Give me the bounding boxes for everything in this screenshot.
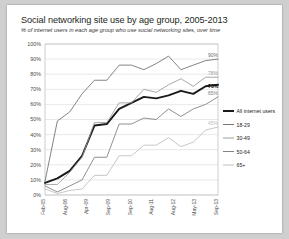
series-line [45, 85, 218, 183]
x-axis-tick-label: Feb-05 [40, 199, 46, 215]
series-line [45, 56, 218, 181]
series-end-labels: 73%90%78%65%45% [208, 52, 219, 126]
series-lines [45, 56, 218, 193]
x-axis-tick-label: May-13 [191, 199, 197, 216]
x-axis-tick-label: Sep-10 [127, 199, 133, 215]
y-axis-tick-label: 10% [30, 177, 41, 183]
legend: All internet users18-2930-4950-6465+ [223, 108, 276, 168]
legend-label: All internet users [237, 108, 276, 114]
chart-plot-area: 0%10%20%30%40%50%60%70%80%90%100% 73%90%… [7, 5, 282, 233]
series-end-label: 90% [208, 52, 219, 58]
legend-label: 65+ [237, 162, 246, 168]
series-end-label: 73% [208, 83, 219, 89]
series-end-label: 65% [208, 90, 219, 96]
y-axis-tick-label: 90% [30, 56, 41, 62]
legend-label: 50-64 [237, 149, 250, 155]
legend-label: 30-49 [237, 135, 250, 141]
series-end-label: 45% [208, 120, 219, 126]
y-axis-tick-label: 30% [30, 147, 41, 153]
y-axis-tick-label: 100% [27, 41, 41, 47]
y-axis-tick-label: 20% [30, 162, 41, 168]
x-axis-tick-labels: Feb-05Aug-06Apr-09Sep-09Sep-10Aug-11Aug-… [40, 199, 219, 216]
y-axis-tick-label: 60% [30, 101, 41, 107]
chart-card: Social networking site use by age group,… [7, 5, 282, 233]
x-axis-tick-label: Aug-11 [148, 199, 154, 215]
legend-label: 18-29 [237, 122, 250, 128]
series-line [45, 97, 218, 192]
x-axis-tick-label: Sep-09 [105, 199, 111, 215]
x-axis-tick-label: Apr-09 [83, 199, 89, 214]
y-axis-tick-label: 0% [33, 192, 41, 198]
x-axis-tick-label: Aug-12 [170, 199, 176, 215]
y-axis-tick-labels: 0%10%20%30%40%50%60%70%80%90%100% [27, 41, 41, 198]
y-axis-tick-label: 50% [30, 116, 41, 122]
gridlines [45, 44, 218, 195]
series-end-label: 78% [208, 70, 219, 76]
y-axis-tick-label: 40% [30, 132, 41, 138]
line-chart-svg: 0%10%20%30%40%50%60%70%80%90%100% 73%90%… [7, 5, 282, 233]
y-axis-tick-label: 70% [30, 86, 41, 92]
x-axis-tick-label: Aug-06 [62, 199, 68, 215]
x-axis-tick-label: Sep-13 [213, 199, 219, 215]
y-axis-tick-label: 80% [30, 71, 41, 77]
series-line [45, 127, 218, 193]
